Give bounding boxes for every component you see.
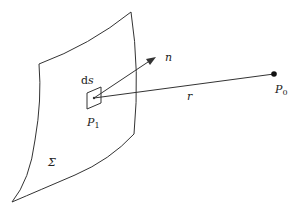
label-ds-s: s [88, 74, 94, 87]
label-p0: P0 [275, 84, 288, 97]
distance-line-r [94, 74, 274, 98]
arrowhead-icon [146, 57, 156, 65]
label-ds-d: d [81, 74, 88, 87]
label-p1: P1 [87, 117, 100, 130]
label-surface-sigma: Σ [48, 157, 56, 168]
label-distance-r: r [187, 91, 192, 102]
label-ds: ds [81, 75, 94, 86]
label-p1-subscript: 1 [94, 121, 99, 130]
point-p0-dot [271, 71, 277, 77]
label-p0-subscript: 0 [282, 88, 287, 97]
normal-vector [94, 60, 151, 98]
diagram-canvas [0, 0, 293, 211]
point-p1-dot [93, 97, 95, 99]
surface-outline [12, 12, 136, 202]
label-normal-n: n [165, 52, 172, 63]
